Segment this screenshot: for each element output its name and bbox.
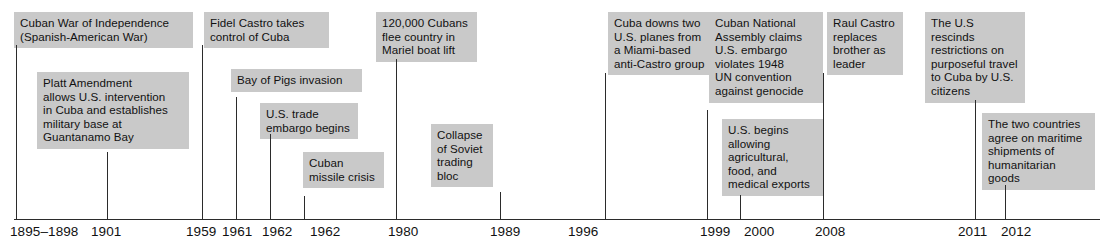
event-box-missile-crisis: Cuban missile crisis [303,152,384,188]
tick-line-2000 [740,195,741,220]
tick-label-1895-1898: 1895–1898 [10,224,78,240]
event-box-platt-amendment: Platt Amendment allows U.S. intervention… [37,72,189,149]
tick-line-1959 [202,45,203,220]
event-box-trade-embargo: U.S. trade embargo begins [260,103,358,139]
tick-line-2012 [1005,185,1006,220]
event-box-travel-restrictions: The U.S rescinds restrictions on purpose… [925,12,1025,103]
event-box-agricultural-exports: U.S. begins allowing agricultural, food,… [722,119,823,196]
tick-label-2012: 2012 [1001,224,1031,240]
tick-line-1989 [500,192,501,220]
event-box-castro-takes-control: Fidel Castro takes control of Cuba [204,12,329,48]
event-box-raul-castro-leader: Raul Castro replaces brother as leader [827,12,903,75]
tick-line-1962a [270,134,271,220]
tick-label-1901: 1901 [91,224,121,240]
tick-line-2008 [823,73,824,220]
tick-line-1962b [304,196,305,220]
tick-label-1989: 1989 [490,224,520,240]
event-box-genocide-claim: Cuban National Assembly claims U.S. emba… [709,12,823,103]
tick-label-2000: 2000 [744,224,774,240]
tick-label-1959: 1959 [186,224,216,240]
tick-line-1999 [707,110,708,220]
timeline-figure: Cuban War of Independence (Spanish-Ameri… [0,0,1114,246]
tick-label-1961: 1961 [222,224,252,240]
tick-line-1996 [605,73,606,220]
timeline-axis-line [14,219,1100,220]
tick-label-1962b: 1962 [310,224,340,240]
tick-line-1980 [396,59,397,220]
tick-label-2011: 2011 [958,224,987,240]
event-box-planes-downed: Cuba downs two U.S. planes from a Miami-… [608,12,712,75]
event-box-bay-of-pigs: Bay of Pigs invasion [231,69,362,92]
tick-line-2011 [975,100,976,220]
tick-label-2008: 2008 [815,224,845,240]
tick-line-1895-1898 [16,45,17,220]
tick-label-1996: 1996 [568,224,598,240]
tick-line-1901 [107,152,108,220]
tick-label-1999: 1999 [700,224,730,240]
event-box-soviet-bloc-collapse: Collapse of Soviet trading bloc [431,124,493,187]
tick-line-1961 [236,97,237,220]
event-box-mariel-boat-lift: 120,000 Cubans flee country in Mariel bo… [376,12,477,62]
event-box-maritime-shipments: The two countries agree on maritime ship… [982,113,1095,190]
tick-label-1962a: 1962 [262,224,292,240]
event-box-cuban-war-independence: Cuban War of Independence (Spanish-Ameri… [14,12,193,48]
tick-label-1980: 1980 [388,224,418,240]
